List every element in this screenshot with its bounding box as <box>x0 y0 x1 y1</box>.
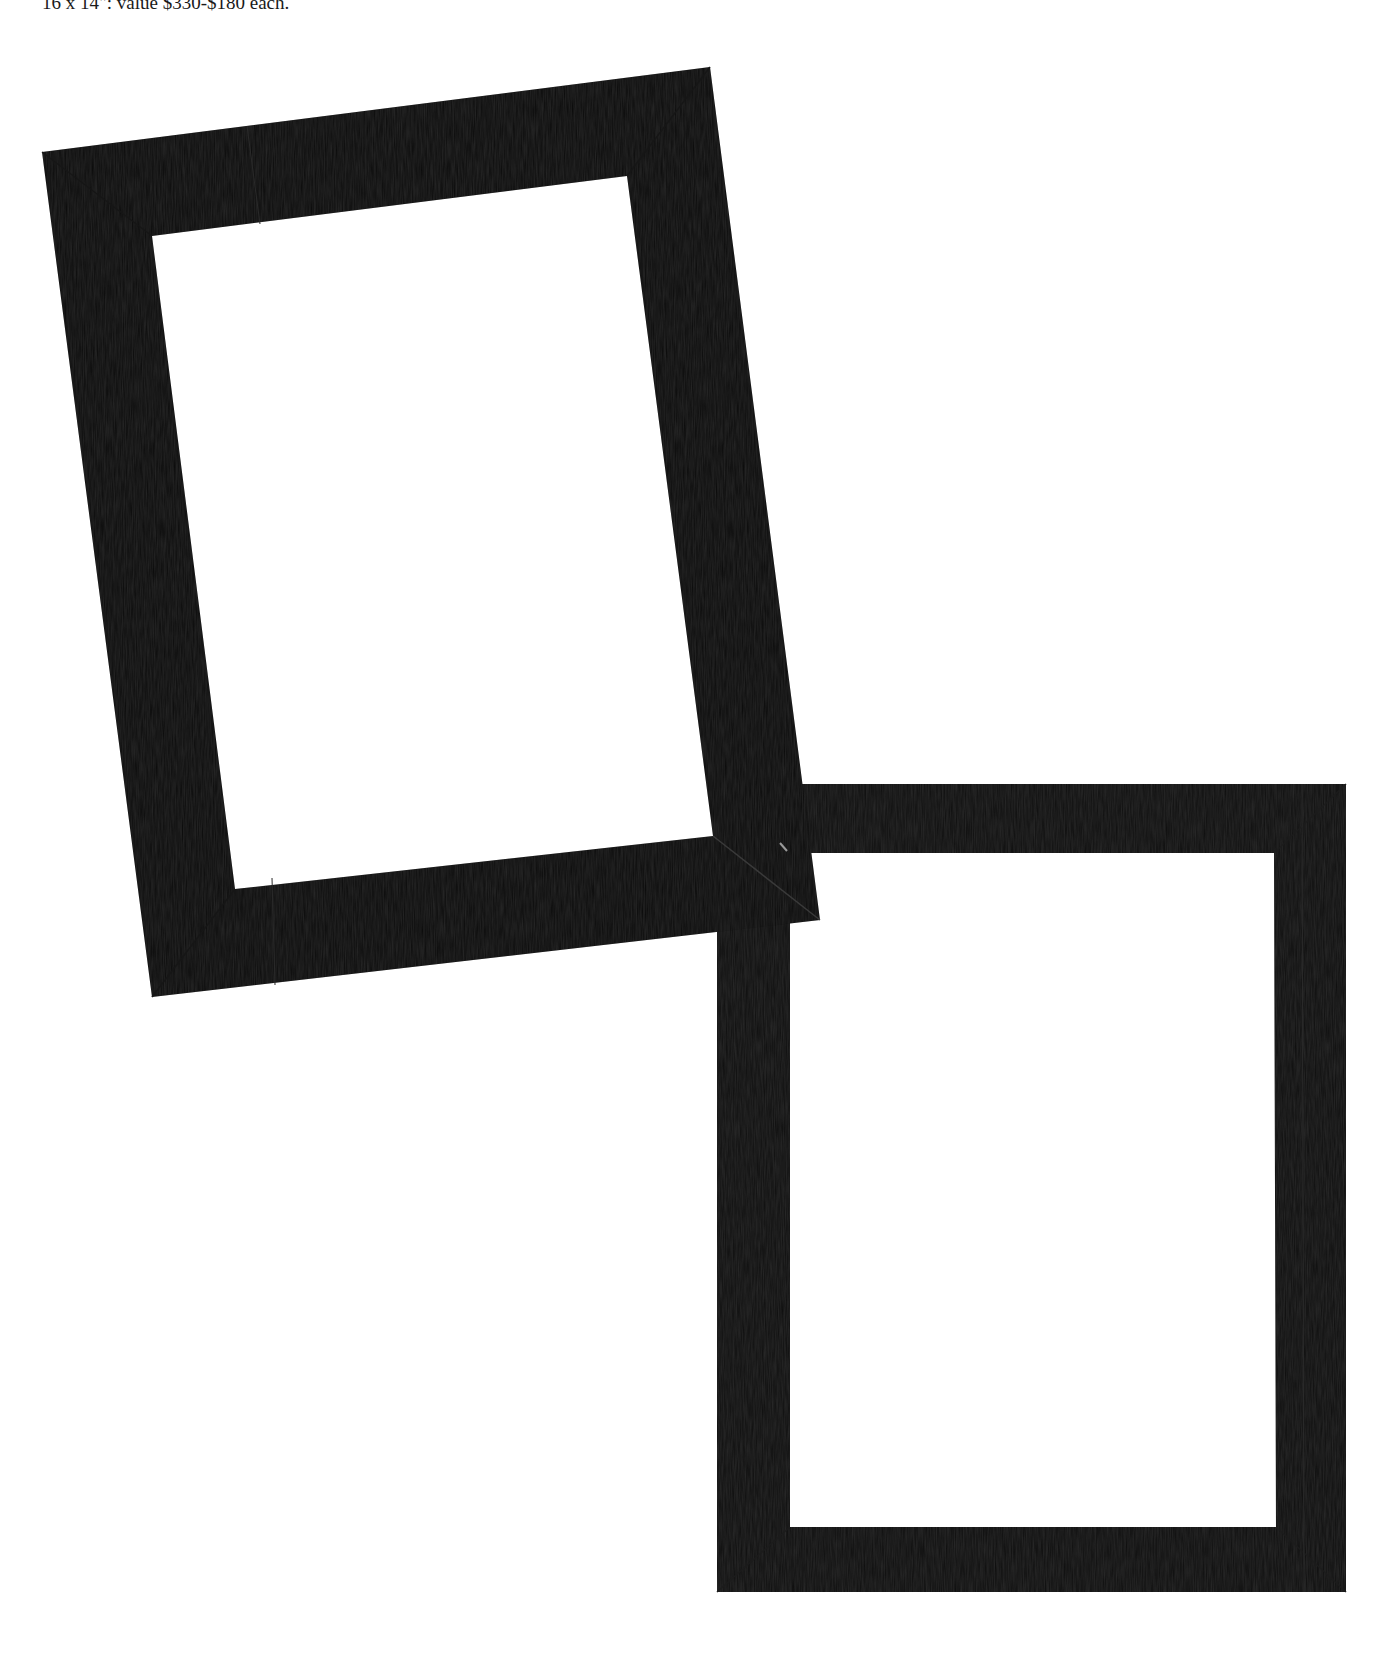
frames-illustration <box>0 0 1386 1654</box>
frame-1 <box>42 67 820 997</box>
